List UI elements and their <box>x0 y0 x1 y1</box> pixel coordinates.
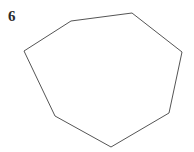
figure-number-label: 6 <box>8 9 16 24</box>
polygon-figure <box>0 0 194 152</box>
figure-container: 6 <box>0 0 194 152</box>
heptagon-outline <box>24 13 182 147</box>
